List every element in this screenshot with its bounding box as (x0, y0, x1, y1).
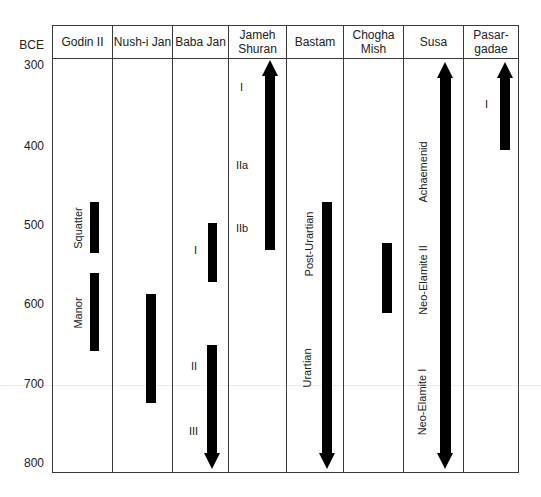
label-pasargadae-i: I (485, 98, 488, 110)
period-bar-susa (440, 77, 451, 454)
label-neo-elamite-i: Neo-Elamite I (416, 369, 428, 436)
period-bar-baba-jan-i (208, 223, 217, 282)
label-jameh-i: I (240, 81, 243, 93)
header-text: Mish (352, 42, 394, 56)
column-divider (518, 25, 519, 473)
column-divider (463, 25, 464, 473)
header-text: Chogha (352, 28, 394, 42)
label-squatter: Squatter (72, 207, 84, 249)
header-text: Jameh (238, 28, 277, 42)
column-divider (343, 25, 344, 473)
label-urartian: Urartian (301, 348, 313, 387)
label-baba-jan-ii: II (191, 360, 197, 372)
header-text: gadae (473, 42, 508, 56)
y-tick-600: 600 (4, 297, 44, 311)
column-header-chogha-mish: ChoghaMish (344, 26, 403, 58)
arrow-down-icon (204, 453, 220, 469)
column-divider (228, 25, 229, 473)
y-tick-300: 300 (4, 58, 44, 72)
column-header-bastam: Bastam (287, 26, 343, 58)
chronology-chart: BCE 300 400 500 600 700 800 Godin II Nus… (0, 0, 541, 497)
label-neo-elamite-ii: Neo-Elamite II (417, 245, 429, 315)
label-jameh-iib: IIb (236, 222, 248, 234)
column-divider (172, 25, 173, 473)
period-bar-godin-manor (90, 273, 99, 351)
header-text: Godin II (61, 35, 103, 49)
period-bar-pasargadae (500, 77, 510, 150)
y-tick-800: 800 (4, 456, 44, 470)
arrow-down-icon (319, 453, 335, 469)
header-text: Shuran (238, 42, 277, 56)
label-manor: Manor (72, 297, 84, 328)
label-post-urartian: Post-Urartian (303, 212, 315, 277)
y-tick-400: 400 (4, 139, 44, 153)
column-header-baba-jan: Baba Jan (173, 26, 228, 58)
arrow-up-icon (262, 60, 278, 76)
column-divider (403, 25, 404, 473)
header-text: Pasar- (473, 28, 508, 42)
y-tick-700: 700 (4, 377, 44, 391)
scan-artifact-line (0, 385, 541, 386)
label-baba-jan-iii: III (189, 425, 198, 437)
column-header-pasargadae: Pasar-gadae (464, 26, 518, 58)
arrow-down-icon (437, 453, 453, 469)
arrow-up-icon (497, 62, 513, 78)
header-text: Nush-i Jan (114, 35, 171, 49)
label-jameh-iia: IIa (236, 159, 248, 171)
header-text: Baba Jan (175, 35, 226, 49)
column-divider (286, 25, 287, 473)
column-divider (112, 25, 113, 473)
label-achaemenid: Achaemenid (417, 141, 429, 202)
column-header-godin-ii: Godin II (53, 26, 112, 58)
header-text: Susa (420, 35, 447, 49)
axis-unit-label: BCE (4, 38, 44, 52)
period-bar-chogha-mish (382, 243, 392, 313)
column-header-jameh-shuran: JamehShuran (229, 26, 286, 58)
period-bar-godin-squatter (90, 202, 99, 253)
arrow-up-icon (437, 62, 453, 78)
period-bar-nush-i-jan (146, 294, 156, 403)
period-bar-baba-jan-ii-iii (207, 345, 217, 454)
column-header-nush-i-jan: Nush-i Jan (113, 26, 172, 58)
header-text: Bastam (295, 35, 336, 49)
label-baba-jan-i: I (194, 244, 197, 256)
period-bar-bastam (322, 202, 332, 454)
column-divider (52, 25, 53, 473)
period-bar-jameh-shuran (265, 75, 275, 250)
y-tick-500: 500 (4, 218, 44, 232)
column-header-susa: Susa (404, 26, 463, 58)
